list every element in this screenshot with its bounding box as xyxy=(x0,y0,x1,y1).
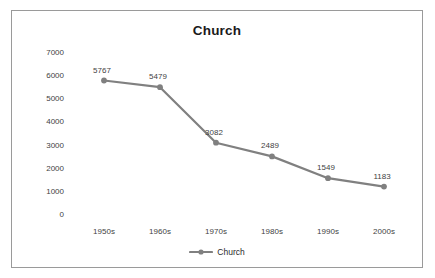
data-point-label: 1183 xyxy=(373,172,390,181)
data-point-marker xyxy=(101,78,107,84)
chart-frame: Church 01000200030004000500060007000 195… xyxy=(11,10,423,268)
data-point-label: 5767 xyxy=(93,66,111,75)
data-point-label: 2489 xyxy=(261,141,279,150)
data-point-marker xyxy=(213,140,219,146)
series-markers xyxy=(101,78,387,190)
series-line xyxy=(104,81,384,187)
data-point-label: 5479 xyxy=(149,72,167,81)
line-series-church xyxy=(12,11,424,269)
data-point-label: 1549 xyxy=(317,163,335,172)
data-point-marker xyxy=(157,84,163,90)
legend-marker-icon xyxy=(189,247,213,257)
chart-legend: Church xyxy=(12,247,422,257)
plot-area: 01000200030004000500060007000 1950s1960s… xyxy=(12,11,424,269)
data-point-marker xyxy=(269,154,275,160)
data-point-marker xyxy=(381,184,387,190)
data-point-label: 3082 xyxy=(205,128,223,137)
data-point-marker xyxy=(325,175,331,181)
legend-label-church: Church xyxy=(217,247,244,257)
